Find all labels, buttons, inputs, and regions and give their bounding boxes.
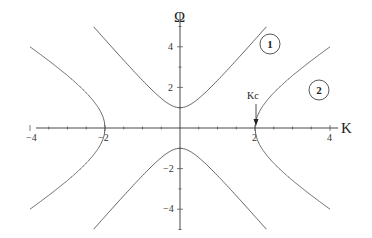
branch-2-label: 2 xyxy=(309,80,329,100)
y-axis-label: Ω xyxy=(174,9,185,25)
y-tick-label: 4 xyxy=(168,41,173,52)
branch-1-label: 1 xyxy=(260,34,280,54)
y-tick-label: −2 xyxy=(163,163,174,174)
branch-2-lower-right-curve xyxy=(255,128,330,209)
svg-text:2: 2 xyxy=(316,84,322,96)
x-tick-label: −4 xyxy=(26,132,37,143)
kc-label: Kc xyxy=(247,90,259,101)
branch-2-upper-left-curve xyxy=(30,47,105,128)
x-axis-label: K xyxy=(341,120,352,136)
x-tick-label: 4 xyxy=(327,132,332,143)
dispersion-chart: −4 −2 2 4 4 2 −2 −4 Ω K 1 2 Kc xyxy=(0,0,372,238)
y-tick-label: −4 xyxy=(163,203,174,214)
y-tick-label: 2 xyxy=(168,82,173,93)
branch-2-lower-left-curve xyxy=(30,128,105,209)
svg-text:1: 1 xyxy=(267,38,273,50)
